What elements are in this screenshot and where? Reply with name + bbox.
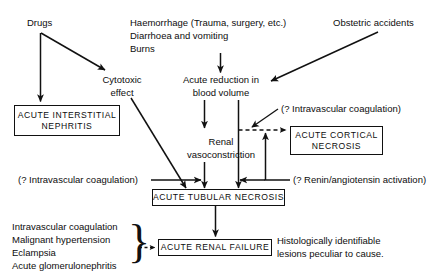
- annotation-intravascular-coagulation-left: (? Intravascular coagulation): [18, 174, 138, 186]
- label-other-cause-4: Acute glomerulonephritis: [12, 260, 117, 272]
- label-renal-vasoconstriction-line2: vasoconstriction: [171, 149, 271, 161]
- flowchart-diagram: Drugs Haemorrhage (Trauma, surgery, etc.…: [0, 0, 441, 279]
- label-burns: Burns: [130, 43, 155, 55]
- annotation-renin-angiotensin: (? Renin/angiotensin activation): [293, 174, 426, 186]
- annotation-intravascular-coagulation-top: (? Intravascular coagulation): [281, 103, 401, 115]
- box-acute-interstitial-nephritis: ACUTE INTERSTITIAL NEPHRITIS: [14, 105, 120, 136]
- label-diarrhoea-vomiting: Diarrhoea and vomiting: [130, 30, 228, 42]
- label-cytotoxic-effect-line2: effect: [92, 87, 152, 99]
- curly-brace-other-causes: }: [128, 219, 150, 265]
- label-other-cause-3: Eclampsia: [12, 247, 56, 259]
- edge-drugs-to-cytotoxic-effect: [41, 33, 105, 70]
- label-drugs: Drugs: [27, 17, 52, 29]
- label-acute-reduction-line2: blood volume: [166, 87, 276, 99]
- box-acute-tubular-necrosis: ACUTE TUBULAR NECROSIS: [152, 189, 285, 206]
- label-other-cause-1: Intravascular coagulation: [12, 221, 118, 233]
- box-acute-renal-failure: ACUTE RENAL FAILURE: [158, 239, 272, 256]
- label-obstetric-accidents: Obstetric accidents: [333, 17, 414, 29]
- label-haemorrhage: Haemorrhage (Trauma, surgery, etc.): [130, 17, 286, 29]
- edge-intravascular-coagulation-top: [252, 109, 278, 127]
- note-histologically-identifiable-line1: Histologically identifiable: [277, 235, 381, 247]
- box-acute-cortical-necrosis: ACUTE CORTICAL NECROSIS: [290, 126, 383, 155]
- label-renal-vasoconstriction-line1: Renal: [171, 136, 271, 148]
- note-histologically-identifiable-line2: lesions peculiar to cause.: [277, 248, 384, 260]
- label-other-cause-2: Malignant hypertension: [12, 234, 110, 246]
- edge-obstetric-to-acute-reduction: [271, 32, 378, 81]
- label-acute-reduction-line1: Acute reduction in: [166, 74, 276, 86]
- label-cytotoxic-effect-line1: Cytotoxic: [92, 74, 152, 86]
